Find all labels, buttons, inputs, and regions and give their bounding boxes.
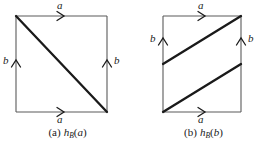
- panel-a-caption-expression: hB(a): [64, 126, 87, 138]
- figure-root: a a b b (a)hB(a): [0, 0, 271, 149]
- panel-b-caption-close-paren: ): [219, 126, 223, 138]
- edge-label-bottom-b: a: [198, 114, 204, 125]
- panel-b-caption-tag: (b): [184, 126, 197, 138]
- edge-label-left-b: b: [150, 33, 156, 44]
- edge-label-top-b: a: [198, 0, 204, 11]
- figure-panel-b: a a b b (b)hB(b): [136, 0, 271, 149]
- panel-a-caption-close-paren: ): [83, 126, 87, 138]
- panel-b-caption: (b)hB(b): [136, 126, 271, 140]
- heavy-lower-diagonal-b: [163, 64, 241, 112]
- panel-a-caption: (a)hB(a): [0, 126, 135, 140]
- heavy-main-diagonal-a: [16, 16, 107, 112]
- edge-label-top-a: a: [57, 0, 63, 11]
- heavy-upper-diagonal-b: [163, 16, 241, 64]
- edge-label-bottom-a: a: [57, 114, 63, 125]
- figure-panel-a: a a b b (a)hB(a): [0, 0, 135, 149]
- edge-label-right-a: b: [114, 55, 120, 66]
- panel-b-caption-expression: hB(b): [200, 126, 223, 138]
- edge-label-right-b: b: [248, 33, 254, 44]
- panel-b-diagram: [136, 0, 271, 128]
- square-outline-b: [163, 16, 241, 112]
- panel-a-caption-tag: (a): [48, 126, 60, 138]
- edge-label-left-a: b: [3, 55, 9, 66]
